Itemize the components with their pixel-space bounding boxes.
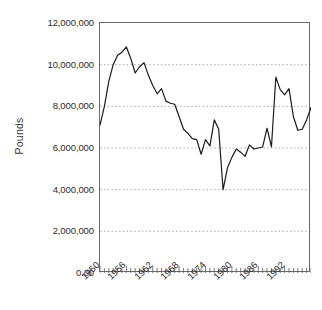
- y-axis-tick-label: 6,000,000: [53, 142, 94, 153]
- data-series-line: [100, 47, 311, 190]
- y-axis-tick-label: 2,000,000: [53, 225, 94, 236]
- y-axis-tick-labels: 12,000,00010,000,0008,000,0006,000,0004,…: [30, 0, 94, 290]
- y-axis-tick-label: 8,000,000: [53, 100, 94, 111]
- y-axis-title: Pounds: [13, 118, 25, 155]
- plot-area: [99, 22, 310, 272]
- y-axis-title-container: Pounds: [6, 0, 32, 272]
- plot-svg: [100, 23, 311, 273]
- gridlines-group: [100, 65, 311, 232]
- y-axis-tick-label: 10,000,000: [47, 58, 94, 69]
- x-axis-tick-labels: 19501956196219681974198019861992: [0, 274, 322, 310]
- line-chart-figure: Pounds 12,000,00010,000,0008,000,0006,00…: [0, 0, 322, 310]
- y-axis-tick-label: 4,000,000: [53, 183, 94, 194]
- y-axis-tick-label: 12,000,000: [47, 17, 94, 28]
